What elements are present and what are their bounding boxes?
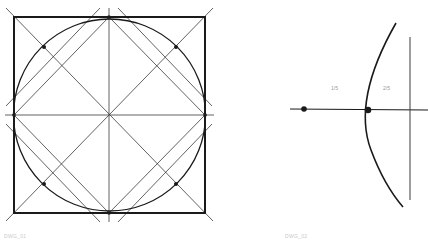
arc-curve	[365, 23, 403, 207]
label-two-fifths: 2/5	[383, 85, 390, 91]
intersection-dot	[42, 45, 46, 49]
diamond-line	[118, 124, 212, 222]
intersection-dot	[174, 182, 178, 186]
square-circle-figure	[5, 8, 214, 222]
intersection-point-dot	[365, 107, 372, 114]
intersection-dot	[174, 45, 178, 49]
arc-division-figure: 1/5 2/5	[290, 23, 428, 207]
start-point-dot	[301, 106, 307, 112]
midpoint-dot	[12, 113, 16, 117]
intersection-dot	[42, 182, 46, 186]
figure-caption-right: DWG_02	[285, 233, 307, 239]
midpoint-dot	[107, 211, 111, 215]
midpoint-dot	[107, 15, 111, 19]
baseline	[290, 109, 428, 110]
figure-caption-left: DWG_01	[4, 233, 26, 239]
label-one-fifth: 1/5	[331, 85, 338, 91]
midpoint-dot	[203, 113, 207, 117]
drawing-canvas: 1/5 2/5	[0, 0, 428, 242]
